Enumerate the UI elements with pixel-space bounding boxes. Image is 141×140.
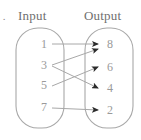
output-value-4: 4	[103, 82, 117, 94]
output-value-6: 6	[103, 61, 117, 73]
mapping-arrow-3-to-8	[52, 49, 98, 65]
function-mapping-diagram: . Input Output 1357 8642	[0, 0, 141, 140]
input-value-7: 7	[37, 101, 51, 113]
output-value-8: 8	[103, 38, 117, 50]
diagram-canvas	[0, 0, 141, 140]
input-value-1: 1	[37, 38, 51, 50]
output-value-2: 2	[103, 104, 117, 116]
mapping-arrows	[52, 44, 98, 110]
input-value-3: 3	[37, 59, 51, 71]
mapping-arrow-7-to-2	[52, 108, 98, 110]
input-value-5: 5	[37, 79, 51, 91]
